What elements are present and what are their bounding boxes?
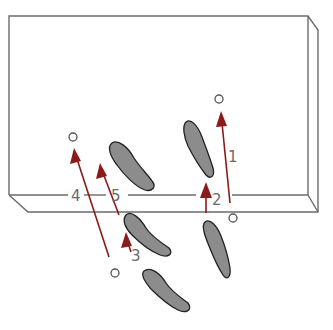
footprint-upper-left [110, 142, 155, 190]
footprint-bottom [143, 269, 190, 311]
marker-bottom [111, 269, 119, 277]
label-3: 3 [131, 247, 141, 265]
marker-top-right [215, 95, 223, 103]
marker-front-right [229, 214, 237, 222]
footprint-lower-right [203, 221, 230, 278]
footstep-diagram: 1 2 3 4 5 [0, 0, 333, 330]
label-1: 1 [228, 148, 238, 166]
block-outline [9, 16, 318, 212]
label-5: 5 [111, 187, 121, 205]
footprint-upper-right [184, 121, 214, 177]
diagram-canvas: 1 2 3 4 5 [0, 0, 333, 330]
marker-left [69, 133, 77, 141]
label-2: 2 [212, 191, 222, 209]
arrow-2 [200, 182, 212, 213]
footprints [110, 121, 231, 312]
label-4: 4 [71, 187, 81, 205]
